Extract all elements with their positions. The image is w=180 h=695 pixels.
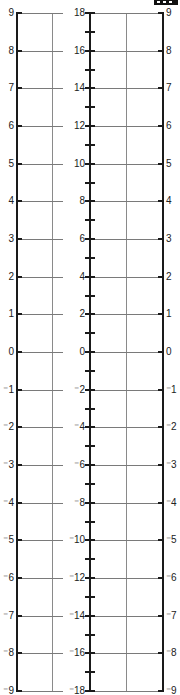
center-scale-label: ⁻12 xyxy=(63,573,85,583)
left-scale-label: ⁻1 xyxy=(0,385,14,395)
right-scale-label: 6 xyxy=(166,121,180,131)
center-scale-label: 10 xyxy=(63,159,85,169)
center-scale-label: ⁻6 xyxy=(63,460,85,470)
right-scale-label: ⁻9 xyxy=(166,686,180,695)
center-scale-label: ⁻4 xyxy=(63,422,85,432)
center-scale-label: ⁻10 xyxy=(63,535,85,545)
right-scale-label: ⁻5 xyxy=(166,535,180,545)
left-scale-label: ⁻8 xyxy=(0,648,14,658)
center-scale-label: ⁻18 xyxy=(63,686,85,695)
right-scale-label: 8 xyxy=(166,46,180,56)
left-scale-label: 2 xyxy=(0,272,14,282)
left-scale-label: 9 xyxy=(0,8,14,18)
left-scale-label: 1 xyxy=(0,309,14,319)
right-scale-label: ⁻2 xyxy=(166,422,180,432)
right-scale-label: ⁻8 xyxy=(166,648,180,658)
center-scale-label: 8 xyxy=(63,196,85,206)
center-axis xyxy=(89,13,91,692)
right-scale-label: ⁻6 xyxy=(166,573,180,583)
right-scale-label: ⁻4 xyxy=(166,498,180,508)
right-axis xyxy=(162,13,164,692)
left-scale-label: 6 xyxy=(0,121,14,131)
center-scale-label: 14 xyxy=(63,83,85,93)
right-scale-label: 5 xyxy=(166,159,180,169)
right-scale-label: 1 xyxy=(166,309,180,319)
left-scale-label: ⁻7 xyxy=(0,611,14,621)
left-scale-label: 4 xyxy=(0,196,14,206)
left-scale-label: ⁻9 xyxy=(0,686,14,695)
right-scale-label: 3 xyxy=(166,234,180,244)
left-scale-label: ⁻3 xyxy=(0,460,14,470)
center-scale-label: 2 xyxy=(63,309,85,319)
left-axis xyxy=(16,13,18,692)
left-scale-label: ⁻4 xyxy=(0,498,14,508)
center-scale-label: ⁻14 xyxy=(63,611,85,621)
center-scale-label: ⁻2 xyxy=(63,385,85,395)
center-scale-label: 16 xyxy=(63,46,85,56)
center-scale-label: 6 xyxy=(63,234,85,244)
center-scale-label: ⁻16 xyxy=(63,648,85,658)
center-scale-label: 12 xyxy=(63,121,85,131)
right-scale-label: ⁻1 xyxy=(166,385,180,395)
right-scale-label: 7 xyxy=(166,83,180,93)
left-scale-label: 0 xyxy=(0,347,14,357)
right-scale-label: ⁻7 xyxy=(166,611,180,621)
left-scale-label: ⁻5 xyxy=(0,535,14,545)
center-scale-label: 18 xyxy=(63,8,85,18)
left-scale-label: 7 xyxy=(0,83,14,93)
right-scale-label: 4 xyxy=(166,196,180,206)
left-scale-label: 8 xyxy=(0,46,14,56)
left-scale-label: 3 xyxy=(0,234,14,244)
left-scale-label: 5 xyxy=(0,159,14,169)
left-scale-label: ⁻6 xyxy=(0,573,14,583)
logo-icon xyxy=(154,0,178,5)
left-scale-label: ⁻2 xyxy=(0,422,14,432)
right-scale-label: 0 xyxy=(166,347,180,357)
right-scale-label: 9 xyxy=(166,8,180,18)
right-scale-label: ⁻3 xyxy=(166,460,180,470)
center-scale-label: 4 xyxy=(63,272,85,282)
right-scale-label: 2 xyxy=(166,272,180,282)
center-scale-label: ⁻8 xyxy=(63,498,85,508)
center-scale-label: 0 xyxy=(63,347,85,357)
